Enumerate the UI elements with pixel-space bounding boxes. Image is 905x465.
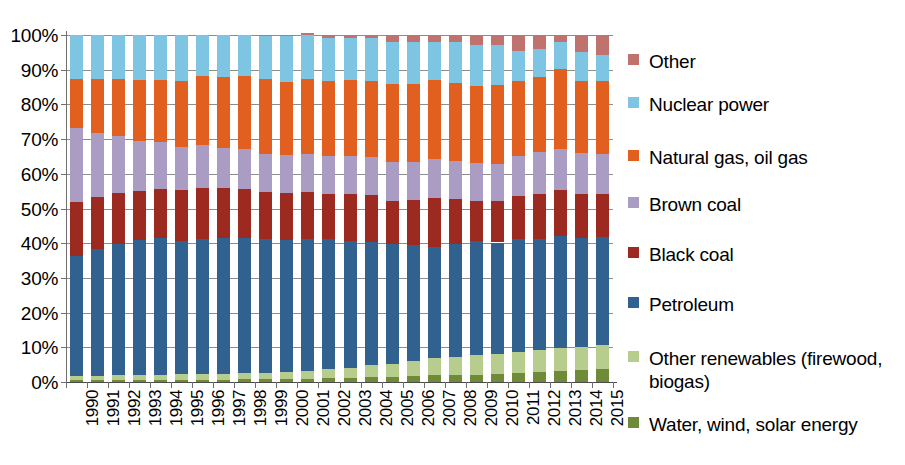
bar-segment [386,364,399,377]
bar-segment [449,375,462,382]
gridline [66,243,613,244]
gridline [66,70,613,71]
legend-swatch-icon [628,297,639,308]
bar-segment [91,79,104,133]
bar-segment [365,157,378,195]
bar-segment [407,245,420,361]
bar-segment [154,238,167,375]
bar-segment [217,35,230,77]
bar-segment [554,348,567,371]
bar-segment [112,244,125,376]
legend-item[interactable]: Petroleum [628,293,734,316]
bar-segment [301,192,314,239]
bar-segment [175,35,188,81]
legend-item[interactable]: Other renewables (firewood, biogas) [628,347,882,393]
y-axis-tick-label: 100% [11,26,58,45]
bar-1996 [196,35,209,382]
bar-segment [322,38,335,81]
legend-label: Natural gas, oil gas [649,146,808,169]
legend-swatch-icon [628,150,639,161]
bar-segment [428,159,441,199]
bar-segment [491,243,504,354]
bar-segment [428,375,441,382]
bar-segment [533,350,546,372]
bar-segment [575,52,588,81]
bar-segment [70,79,83,128]
bar-segment [470,201,483,241]
bar-segment [238,189,251,238]
bar-segment [596,154,609,194]
y-axis-tick-mark [61,104,67,105]
bar-segment [386,42,399,84]
bar-segment [322,194,335,239]
bar-segment [196,239,209,374]
bar-segment [217,238,230,373]
legend-item[interactable]: Nuclear power [628,93,769,116]
bar-segment [344,80,357,156]
bar-segment [196,145,209,188]
legend-swatch-icon [628,417,639,428]
bar-segment [112,79,125,136]
bar-2000 [280,35,293,382]
bar-segment [512,156,525,196]
y-axis-tick-mark [61,35,67,36]
legend-item[interactable]: Brown coal [628,193,741,216]
legend-item[interactable]: Other [628,50,696,73]
bar-segment [196,76,209,145]
x-axis-tick-label: 2011 [525,390,542,425]
bar-segment [512,196,525,239]
bar-segment [280,193,293,240]
y-axis-tick-mark [61,243,67,244]
bar-segment [301,79,314,154]
bar-segment [470,35,483,45]
bar-segment [365,38,378,80]
x-axis-tick-label: 1999 [273,390,290,426]
bar-segment [301,239,314,371]
bar-segment [175,81,188,147]
y-axis-tick-mark [61,313,67,314]
x-axis-tick-label: 2014 [588,390,605,426]
legend-label: Black coal [649,243,734,266]
legend-item[interactable]: Natural gas, oil gas [628,146,808,169]
x-axis-tick-label: 2008 [462,390,479,426]
legend-label: Other renewables (firewood, biogas) [649,347,882,393]
bar-segment [175,147,188,190]
bar-segment [301,35,314,79]
bar-segment [407,200,420,245]
bar-segment [449,35,462,42]
bar-segment [491,45,504,84]
y-axis-tick-mark [61,70,67,71]
bar-segment [533,49,546,77]
bar-segment [238,373,251,379]
x-axis-tick-label: 1990 [84,390,101,426]
bar-segment [575,81,588,152]
plot-area [66,35,613,382]
bar-segment [386,84,399,162]
x-axis-tick-label: 2004 [378,390,395,426]
bar-segment [175,241,188,375]
bar-segment [217,188,230,238]
legend-swatch-icon [628,54,639,65]
bar-segment [596,345,609,369]
bar-segment [512,239,525,352]
bar-segment [344,156,357,194]
bar-segment [175,190,188,240]
x-axis-tick-label: 2001 [315,390,332,426]
y-axis-tick-label: 10% [21,338,58,357]
bar-segment [575,153,588,195]
bar-segment [280,35,293,82]
bar-segment [491,374,504,382]
bar-1998 [238,35,251,382]
x-axis-tick-label: 1993 [147,390,164,426]
legend-item[interactable]: Black coal [628,243,734,266]
bar-segment [449,83,462,161]
bar-2003 [344,35,357,382]
bar-segment [322,35,335,38]
chart-legend: OtherNuclear powerNatural gas, oil gasBr… [628,30,900,450]
bar-segment [596,55,609,80]
bar-segment [512,35,525,51]
bar-segment [259,35,272,79]
legend-item[interactable]: Water, wind, solar energy [628,413,858,436]
bar-segment [575,347,588,370]
bar-segment [596,237,609,345]
